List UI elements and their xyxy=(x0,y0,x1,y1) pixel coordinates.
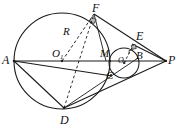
point-P xyxy=(165,60,167,62)
point-D xyxy=(63,107,65,109)
label-P: P xyxy=(168,54,175,66)
label-D: D xyxy=(60,114,69,126)
label-O1: O1 xyxy=(52,48,63,60)
segment-A-C xyxy=(14,61,112,76)
label-B: B xyxy=(136,50,143,61)
segment-D-P xyxy=(64,61,166,108)
label-O2-subscript: 2 xyxy=(124,60,126,65)
label-O1-letter: O xyxy=(52,47,60,59)
point-A xyxy=(13,60,16,63)
label-O2: O2 xyxy=(118,57,126,66)
label-C: C xyxy=(106,70,113,81)
label-r: r xyxy=(128,48,131,56)
label-E: E xyxy=(136,30,143,42)
point-M xyxy=(109,60,111,62)
label-O1-subscript: 1 xyxy=(60,53,63,60)
geometry-canvas xyxy=(0,0,178,132)
segment-A-D xyxy=(14,61,64,108)
segment-D-B xyxy=(64,58,138,108)
geometry-figure: A P F E D C M B O1 O2 R r xyxy=(0,0,178,132)
label-A: A xyxy=(2,54,9,66)
label-F: F xyxy=(92,2,99,14)
label-M: M xyxy=(100,48,109,59)
label-R: R xyxy=(63,26,70,37)
